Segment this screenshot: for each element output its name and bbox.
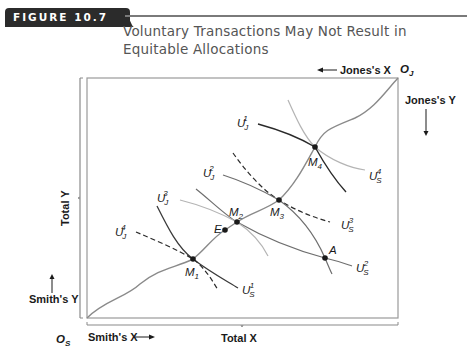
label-a: A [328, 244, 337, 256]
label-uj4: UJ4 [115, 223, 127, 241]
edgeworth-box-diagram: M1 E M2 M3 M4 A US1 US2 US3 US4 UJ1 UJ2 … [0, 0, 467, 359]
jones-curve-uj2 [223, 175, 332, 274]
label-origin-smith: OS [56, 333, 71, 348]
label-us3: US3 [341, 216, 354, 234]
label-total-x: Total X [221, 332, 258, 344]
label-uj1: UJ1 [237, 114, 249, 132]
label-m4: M4 [308, 156, 323, 171]
label-us2: US2 [356, 259, 369, 277]
point-m3 [276, 197, 282, 203]
label-jones-x: Jones's X [340, 64, 392, 76]
label-uj2: UJ2 [203, 164, 215, 182]
label-total-y: Total Y [59, 190, 71, 226]
label-smiths-x: Smith's X [88, 331, 138, 343]
label-e: E [214, 223, 222, 235]
jones-curve-uj1 [258, 124, 346, 192]
point-m4 [312, 144, 318, 150]
label-m1: M1 [185, 266, 199, 281]
label-origin-jones: OJ [400, 63, 414, 78]
label-jones-y: Jones's Y [405, 94, 456, 106]
point-m1 [190, 256, 196, 262]
label-uj3: UJ3 [157, 189, 169, 207]
point-e [222, 227, 228, 233]
point-a [322, 255, 328, 261]
label-us4: US4 [369, 167, 382, 185]
smith-curve-us4 [288, 100, 365, 170]
label-smiths-y: Smith's Y [29, 293, 79, 305]
label-m3: M3 [270, 206, 285, 221]
jones-curve-uj4 [136, 232, 218, 290]
label-us1: US1 [242, 281, 255, 299]
